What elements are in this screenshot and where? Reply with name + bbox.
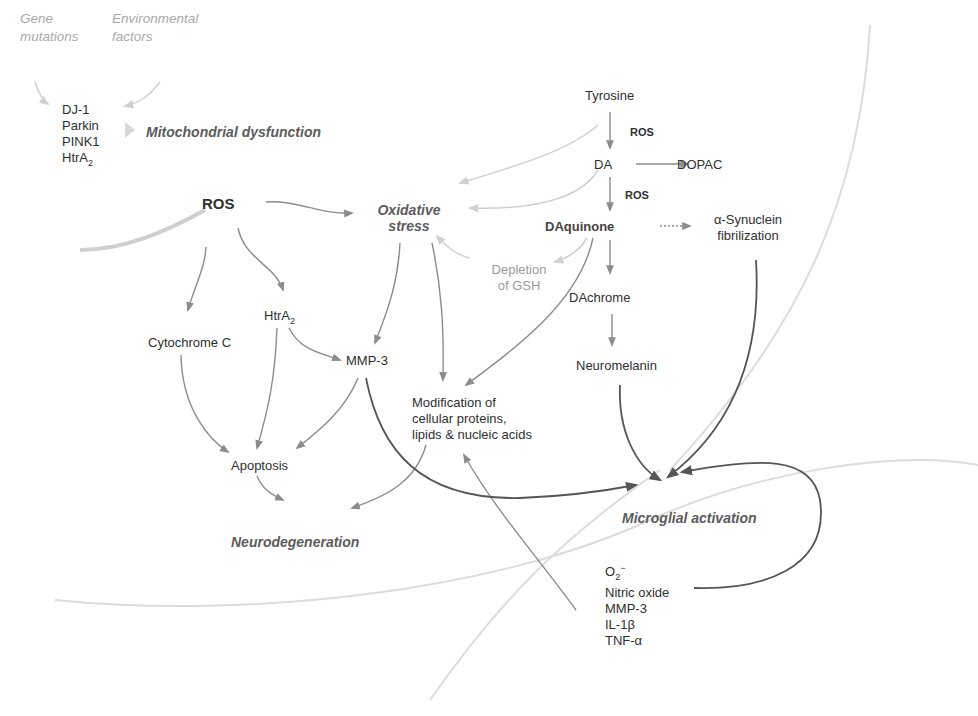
oxidative-stress-line-1: Oxidative	[372, 202, 446, 218]
ros-to-oxstress-arrow	[266, 202, 352, 213]
gene-mutations-line-1: Gene	[20, 10, 79, 28]
tyrosine-node: Tyrosine	[585, 88, 634, 104]
ros-to-htra2-arrow	[238, 228, 283, 290]
product-nitric-oxide: Nitric oxide	[605, 585, 669, 601]
tyrosine-to-oxstress-faint-arrow	[460, 125, 598, 183]
superoxide-superscript: −	[620, 563, 625, 573]
depletion-line-1: Depletion	[484, 262, 554, 278]
oxstress-to-mmp3-arrow	[375, 243, 400, 343]
gene-to-mito-block-arrow	[125, 122, 135, 138]
modification-line-1: Modification of	[412, 395, 532, 411]
environmental-factors-label: Environmental factors	[112, 10, 198, 46]
product-mmp3: MMP-3	[605, 601, 669, 617]
daquinone-to-modification-arrow	[466, 238, 593, 385]
depletion-line-2: of GSH	[484, 278, 554, 294]
gene-htra2-text: HtrA	[62, 150, 88, 165]
oxidative-stress-line-2: stress	[372, 218, 446, 234]
htra2-subscript: 2	[290, 316, 295, 326]
neuromelanin-to-microglial-arrow	[620, 385, 660, 480]
neurodegeneration-node: Neurodegeneration	[231, 534, 359, 550]
oxstress-to-modification-arrow	[432, 243, 443, 380]
arc-right-top	[670, 25, 870, 470]
ros-node: ROS	[202, 196, 235, 212]
faint-arrows	[35, 82, 598, 262]
gene-parkin: Parkin	[62, 118, 100, 134]
htra2-to-apoptosis-arrow	[257, 328, 277, 448]
environmental-line-1: Environmental	[112, 10, 198, 28]
ros-label-tyrosine-to-da: ROS	[630, 124, 654, 140]
gene-list: DJ-1 Parkin PINK1 HtrA2	[62, 102, 100, 171]
superoxide-text: O	[605, 564, 615, 579]
gene-mutations-label: Gene mutations	[20, 10, 79, 46]
gene-dj1: DJ-1	[62, 102, 100, 118]
product-il1b: IL-1β	[605, 617, 669, 633]
gene-htra2-subscript: 2	[88, 158, 93, 168]
da-node: DA	[594, 157, 612, 173]
da-to-oxstress-faint-arrow	[470, 170, 598, 208]
daquinone-to-depletion-faint-arrow	[555, 238, 587, 262]
depletion-gsh-node: Depletion of GSH	[484, 262, 554, 294]
pathway-diagram-canvas	[0, 0, 978, 716]
apoptosis-to-neurodeg-arrow	[257, 476, 283, 500]
htra2-node: HtrA2	[264, 308, 295, 329]
mmp3-to-apoptosis-arrow	[297, 378, 358, 448]
microglial-products-list: O2− Nitric oxide MMP-3 IL-1β TNF-α	[605, 560, 669, 649]
mmp3-node: MMP-3	[346, 353, 388, 369]
superoxide-subscript: 2	[615, 572, 620, 582]
modification-node: Modification of cellular proteins, lipid…	[412, 395, 532, 443]
arc-left-swoosh	[80, 210, 205, 250]
synuclein-line-2: fibrilization	[703, 228, 793, 244]
neuromelanin-node: Neuromelanin	[576, 358, 657, 374]
ros-label-da-to-daquinone: ROS	[625, 187, 649, 203]
environmental-line-2: factors	[112, 28, 198, 46]
microglial-activation-node: Microglial activation	[622, 510, 757, 526]
gene-pink1: PINK1	[62, 134, 100, 150]
daquinone-node: DAquinone	[545, 219, 614, 235]
modification-to-neurodeg-arrow	[352, 445, 426, 508]
ros-to-cytochrome-arrow	[188, 247, 206, 310]
synuclein-line-1: α-Synuclein	[703, 212, 793, 228]
gene-htra2: HtrA2	[62, 150, 100, 171]
gene-mutations-line-2: mutations	[20, 28, 79, 46]
mitochondrial-dysfunction-label: Mitochondrial dysfunction	[146, 124, 321, 140]
product-tnfa: TNF-α	[605, 633, 669, 649]
dachrome-node: DAchrome	[569, 290, 630, 306]
modification-line-3: lipids & nucleic acids	[412, 427, 532, 443]
depletion-to-oxstress-faint-arrow	[437, 236, 470, 258]
dopac-node: DOPAC	[677, 157, 722, 173]
cytochrome-c-node: Cytochrome C	[148, 335, 231, 351]
htra2-text: HtrA	[264, 308, 290, 323]
modification-line-2: cellular proteins,	[412, 411, 532, 427]
oxidative-stress-node: Oxidative stress	[372, 202, 446, 234]
product-superoxide: O2−	[605, 560, 669, 585]
synuclein-fibrilization-node: α-Synuclein fibrilization	[703, 212, 793, 244]
cytochrome-to-apoptosis-arrow	[181, 355, 228, 452]
synuclein-to-microglial-arrow	[668, 260, 757, 477]
htra2-to-mmp3-arrow	[289, 328, 340, 360]
env-to-dj1-arrow	[125, 82, 160, 106]
gene-to-dj1-arrow	[35, 82, 48, 104]
apoptosis-node: Apoptosis	[231, 458, 288, 474]
